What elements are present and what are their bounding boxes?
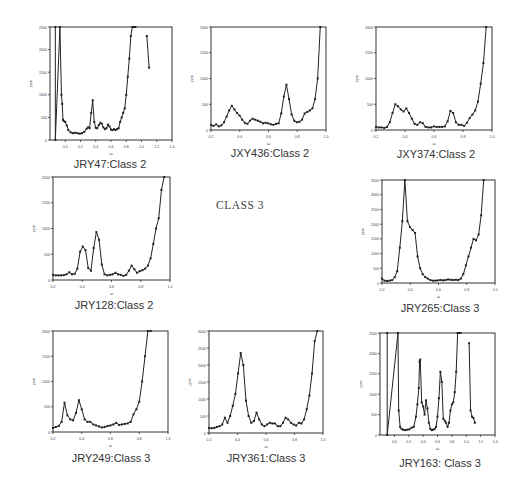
svg-text:0.6: 0.6: [435, 440, 440, 444]
chart-caption-1: JXY436:Class 2: [231, 147, 309, 159]
chart-caption-3: JRY128:Class 2: [75, 299, 154, 311]
svg-text:0.8: 0.8: [449, 440, 454, 444]
chart-caption-2: JXY374:Class 2: [397, 148, 475, 160]
svg-text:1.2: 1.2: [478, 440, 483, 444]
chart-JRY163: 050010001500200025000.00.20.40.60.81.01.…: [0, 0, 516, 494]
svg-text:0.0: 0.0: [392, 440, 397, 444]
svg-text:1000: 1000: [369, 393, 377, 397]
chart-caption-6: JRY361:Class 3: [227, 452, 306, 464]
figure-page: CLASS 3 050010001500200025000.00.20.40.6…: [0, 0, 516, 494]
svg-text:0.2: 0.2: [406, 440, 411, 444]
svg-text:0: 0: [375, 434, 377, 438]
chart-caption-5: JRY249:Class 3: [72, 452, 151, 464]
svg-text:ω: ω: [436, 446, 439, 451]
svg-text:1500: 1500: [369, 372, 377, 376]
chart-caption-4: JRY265:Class 3: [401, 302, 480, 314]
svg-text:2500: 2500: [369, 332, 377, 336]
chart-caption-0: JRY47:Class 2: [74, 158, 147, 170]
svg-text:ppm: ppm: [359, 381, 363, 388]
svg-text:0.4: 0.4: [421, 440, 426, 444]
svg-text:2000: 2000: [369, 352, 377, 356]
chart-caption-7: JRY163: Class 3: [399, 457, 481, 469]
svg-text:500: 500: [371, 413, 377, 417]
svg-text:1.4: 1.4: [493, 440, 498, 444]
svg-text:1.0: 1.0: [464, 440, 469, 444]
